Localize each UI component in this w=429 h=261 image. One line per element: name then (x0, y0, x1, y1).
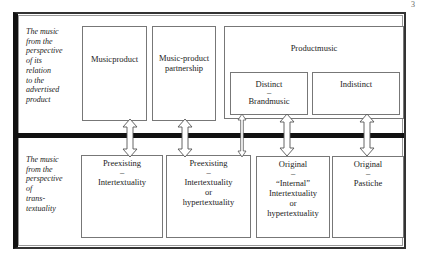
label-line: perspective (26, 46, 78, 56)
dash: – (257, 169, 329, 178)
label-line: from the (26, 165, 78, 175)
box-line: Intertextuality (257, 188, 329, 198)
row-separator (15, 133, 404, 138)
dash: – (333, 169, 403, 178)
indistinct-box: Indistinct (312, 72, 400, 115)
thin-double-arrow-icon (237, 113, 247, 158)
productmusic-label: Productmusic (291, 43, 338, 53)
label-line: to the (26, 76, 78, 86)
label-line: from the (26, 37, 78, 47)
box-line: or (167, 187, 250, 197)
double-arrow-icon (122, 118, 138, 158)
box-line: hypertextuality (257, 208, 329, 218)
original-pastiche-box: Original – Pastiche (332, 156, 404, 238)
indistinct-label: Indistinct (340, 79, 372, 89)
label-line: The music (26, 155, 78, 165)
box-line: “Internal” (257, 178, 329, 188)
label-line: advertised (26, 85, 78, 95)
dash: – (231, 89, 307, 96)
page-number: 3 (411, 0, 415, 9)
label-line: trans- (26, 194, 78, 204)
label-line: The music (26, 27, 78, 37)
dash: – (167, 168, 250, 177)
double-arrow-icon (177, 118, 193, 158)
music-product-partnership-box: Music-product partnership (152, 26, 216, 121)
box-line: Intertextuality (167, 177, 250, 187)
preexisting-intertextuality-box: Preexisting – Intertextuality (81, 155, 163, 238)
original-internal-box: Original – “Internal” Intertextuality or… (256, 156, 330, 238)
label-line: of its (26, 56, 78, 66)
top-row-label: The music from the perspective of its re… (26, 27, 78, 105)
double-arrow-icon (359, 113, 375, 157)
label-line: relation (26, 66, 78, 76)
partnership-label-line: Music-product (153, 53, 215, 63)
label-line: of (26, 184, 78, 194)
partnership-label-line: partnership (153, 63, 215, 73)
label-line: textuality (26, 204, 78, 214)
preexisting-hypertextuality-box: Preexisting – Intertextuality or hyperte… (166, 155, 251, 238)
musicproduct-label: Musicproduct (91, 54, 138, 64)
musicproduct-box: Musicproduct (82, 26, 147, 121)
box-line: or (257, 198, 329, 208)
bottom-row-label: The music from the perspective of trans-… (26, 155, 78, 213)
brandmusic-label: Brandmusic (231, 96, 307, 106)
box-line: hypertextuality (167, 197, 250, 207)
label-line: perspective (26, 174, 78, 184)
label-line: product (26, 95, 78, 105)
dash: – (82, 168, 162, 177)
distinct-brandmusic-box: Distinct – Brandmusic (230, 72, 308, 115)
box-line: Intertextuality (82, 177, 162, 187)
box-line: Pastiche (333, 178, 403, 188)
double-arrow-icon (279, 113, 295, 157)
